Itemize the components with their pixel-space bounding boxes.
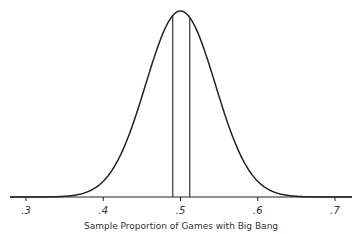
x-axis-label: Sample Proportion of Games with Big Bang (84, 221, 278, 231)
x-tick-label: .5 (176, 205, 186, 216)
x-tick-label: .3 (21, 205, 31, 216)
x-tick-label: .4 (98, 205, 108, 216)
x-tick-label: .7 (330, 205, 340, 216)
normal-curve-plot: .3.4.5.6.7Sample Proportion of Games wit… (0, 0, 354, 234)
chart: .3.4.5.6.7Sample Proportion of Games wit… (0, 0, 354, 234)
normal-curve (10, 11, 352, 197)
x-tick-label: .6 (253, 205, 263, 216)
